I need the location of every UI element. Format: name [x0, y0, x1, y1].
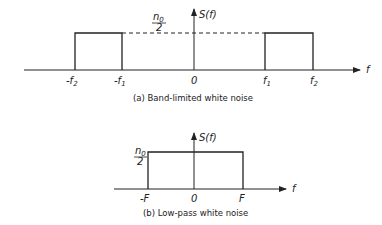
svg-text:2: 2 [156, 22, 162, 33]
level-label: n0 2 [152, 11, 166, 33]
tick-zero: 0 [191, 75, 197, 86]
tick-F: F [239, 193, 245, 204]
svg-text:S(f): S(f) [199, 9, 217, 20]
tick-neg-f1: -f1 [114, 75, 126, 88]
svg-text:2: 2 [137, 156, 143, 167]
left-band-rect [75, 33, 122, 70]
svg-text:S(f): S(f) [199, 132, 217, 143]
tick-f2: f2 [310, 75, 319, 88]
caption-b: (b) Low-pass white noise [143, 208, 248, 218]
right-band-rect [265, 33, 313, 70]
diagram-canvas: S(f) f n0 2 -f2 -f1 0 f1 f2 (a) Band-lim… [0, 0, 382, 225]
caption-a: (a) Band-limited white noise [133, 93, 253, 103]
lowpass-rect [148, 152, 243, 189]
svg-text:f: f [366, 64, 371, 75]
figure-a: S(f) f n0 2 -f2 -f1 0 f1 f2 (a) Band-lim… [24, 9, 371, 103]
x-axis-label: f [292, 183, 297, 194]
y-axis-label: S(f) [199, 9, 217, 20]
figure-b: S(f) f n0 2 -F 0 F (b) Low-pass white no… [114, 132, 297, 218]
tick-neg-f2: -f2 [66, 75, 78, 88]
x-axis-label: f [366, 64, 371, 75]
svg-text:f: f [292, 183, 297, 194]
tick-f1: f1 [263, 75, 271, 88]
y-axis-label: S(f) [199, 132, 217, 143]
level-label: n0 2 [134, 145, 147, 167]
tick-neg-F: -F [140, 193, 150, 204]
tick-zero: 0 [191, 193, 197, 204]
